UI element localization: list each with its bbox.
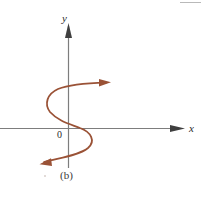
curve-arrowhead-lower-left [40,158,53,166]
sideways-s-curve [44,83,106,162]
figure-caption: (b) [60,170,73,181]
y-axis-arrowhead [65,23,72,38]
origin-label: 0 [57,130,62,140]
x-axis-arrowhead [170,125,185,132]
figure-panel: y x 0 (b) [0,0,201,200]
curve-arrowhead-upper-right [99,79,111,87]
y-axis-label: y [62,13,67,24]
coordinate-plane-graphic [0,0,201,200]
stray-speck [44,175,46,177]
x-axis-label: x [189,123,194,134]
